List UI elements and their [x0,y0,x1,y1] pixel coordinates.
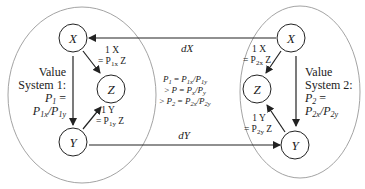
value-system-1-label: Value System 1: P1 = P1x/P1y [18,65,66,119]
right-node-x: X [277,24,305,52]
svg-text:P1x/P1y: P1x/P1y [32,104,67,119]
left-node-z: Z [97,75,125,103]
left-node-x: X [59,24,87,52]
dx-flow-label: dX [181,42,195,54]
right-y-to-z-label-1: 1 Y [252,113,266,123]
svg-text:Value: Value [305,65,332,79]
value-systems-diagram: X Z Y 1 X = P1x Z 1 Y = P1y Z Value Syst… [0,0,365,189]
left-y-to-z-label-1: 1 Y [101,105,115,115]
svg-text:> P2 = P2x/P2y: > P2 = P2x/P2y [159,96,211,107]
svg-text:Z: Z [107,82,115,97]
right-x-to-z-label-1: 1 X [252,44,266,54]
svg-text:System 2:: System 2: [305,78,353,92]
right-x-to-z-label-2: = P2x Z [243,55,271,67]
svg-text:> P = Px/Py: > P = Px/Py [164,85,206,96]
svg-text:Value: Value [39,65,66,79]
svg-text:P2x/P2y: P2x/P2y [304,104,339,119]
left-node-y: Y [59,128,87,156]
svg-text:X: X [68,31,78,46]
right-node-z: Z [243,75,271,103]
price-relation: P1 = P1x/P1y > P = Px/Py > P2 = P2x/P2y [159,74,211,107]
right-y-to-z-label-2: = P2y Z [244,124,272,136]
value-system-2-label: Value System 2: P2 = P2x/P2y [304,65,353,119]
right-node-y: Y [281,131,309,159]
left-y-to-z-label-2: = P1y Z [96,116,124,128]
dy-flow-label: dY [178,129,192,141]
left-x-to-z-label-2: = P1x Z [98,56,126,68]
left-x-to-z-label-1: 1 X [105,45,119,55]
svg-text:System 1:: System 1: [18,78,66,92]
svg-text:P1 = P1x/P1y: P1 = P1x/P1y [162,74,207,85]
svg-text:X: X [286,31,296,46]
svg-text:Z: Z [253,82,261,97]
